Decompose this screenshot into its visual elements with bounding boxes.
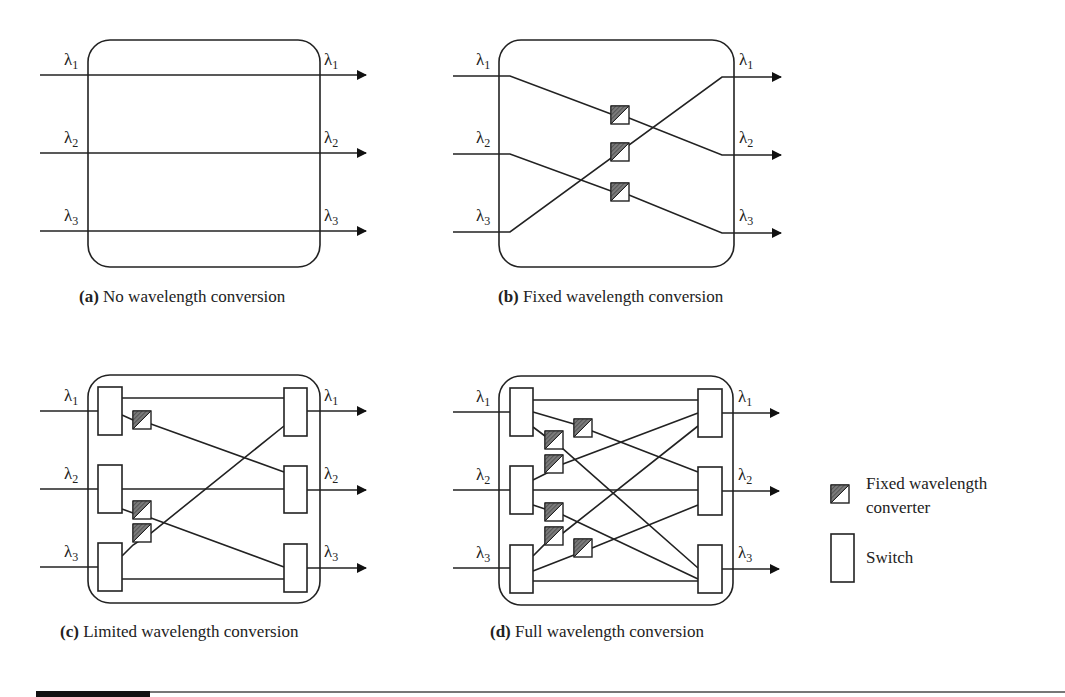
panel-d bbox=[453, 376, 779, 605]
converter-icon bbox=[545, 431, 563, 449]
output-label-lambda1: λ1 bbox=[738, 387, 752, 410]
converter-icon bbox=[611, 183, 629, 201]
panel-a bbox=[40, 40, 366, 267]
converter-icon bbox=[133, 411, 151, 429]
output-label-lambda2: λ2 bbox=[739, 128, 753, 151]
converter-icon bbox=[133, 501, 151, 519]
footer-bar bbox=[36, 691, 150, 697]
converter-icon bbox=[545, 527, 563, 545]
panel-c-converters bbox=[133, 411, 151, 542]
panel-c bbox=[40, 375, 366, 603]
output-label-lambda1: λ1 bbox=[324, 50, 338, 73]
switch-icon bbox=[698, 545, 722, 593]
input-label-lambda2: λ2 bbox=[64, 464, 78, 487]
output-label-lambda2: λ2 bbox=[738, 465, 752, 488]
switch-icon bbox=[510, 388, 533, 436]
legend-switch-label: Switch bbox=[866, 546, 913, 570]
legend-converter-icon bbox=[831, 485, 849, 503]
legend-switch-icon bbox=[831, 534, 854, 582]
input-label-lambda1: λ1 bbox=[476, 387, 490, 410]
caption-d: (d) Full wavelength conversion bbox=[490, 622, 704, 642]
output-label-lambda3: λ3 bbox=[739, 206, 753, 229]
input-label-lambda2: λ2 bbox=[64, 128, 78, 151]
input-label-lambda3: λ3 bbox=[64, 542, 78, 565]
output-label-lambda1: λ1 bbox=[739, 50, 753, 73]
switch-icon bbox=[284, 544, 307, 592]
converter-icon bbox=[545, 503, 563, 521]
input-label-lambda1: λ1 bbox=[64, 386, 78, 409]
switch-icon bbox=[284, 388, 307, 436]
output-label-lambda3: λ3 bbox=[324, 206, 338, 229]
legend bbox=[831, 485, 854, 582]
converter-icon bbox=[611, 106, 629, 124]
switch-icon bbox=[98, 543, 122, 591]
converter-icon bbox=[574, 419, 592, 437]
switch-icon bbox=[698, 389, 722, 437]
output-label-lambda2: λ2 bbox=[324, 464, 338, 487]
panel-d-converters bbox=[545, 419, 592, 557]
wavelength-conversion-diagram bbox=[0, 0, 1065, 697]
converter-icon bbox=[611, 143, 629, 161]
output-label-lambda3: λ3 bbox=[738, 543, 752, 566]
caption-a: (a) No wavelength conversion bbox=[79, 287, 285, 307]
input-label-lambda1: λ1 bbox=[476, 50, 490, 73]
output-label-lambda2: λ2 bbox=[324, 128, 338, 151]
switch-icon bbox=[98, 387, 122, 435]
switch-icon bbox=[510, 466, 533, 514]
output-label-lambda1: λ1 bbox=[324, 386, 338, 409]
converter-icon bbox=[574, 539, 592, 557]
input-label-lambda3: λ3 bbox=[476, 206, 490, 229]
input-label-lambda3: λ3 bbox=[64, 206, 78, 229]
legend-converter-label: Fixed wavelength converter bbox=[866, 472, 987, 520]
caption-c: (c) Limited wavelength conversion bbox=[60, 622, 298, 642]
switch-icon bbox=[510, 545, 533, 593]
switch-icon bbox=[98, 465, 122, 513]
input-label-lambda1: λ1 bbox=[64, 50, 78, 73]
switch-icon bbox=[284, 466, 307, 513]
switch-icon bbox=[698, 467, 722, 515]
converter-icon bbox=[545, 455, 563, 473]
output-label-lambda3: λ3 bbox=[324, 542, 338, 565]
input-label-lambda2: λ2 bbox=[476, 128, 490, 151]
input-label-lambda3: λ3 bbox=[476, 543, 490, 566]
footer-rule bbox=[150, 691, 1065, 693]
panel-b-converters bbox=[611, 106, 629, 201]
converter-icon bbox=[133, 524, 151, 542]
input-label-lambda2: λ2 bbox=[476, 465, 490, 488]
caption-b: (b) Fixed wavelength conversion bbox=[498, 287, 723, 307]
